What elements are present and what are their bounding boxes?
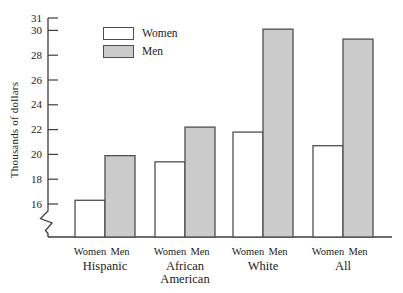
bar-chart-figure: 161820222426283031WomenMenHispanicWomenM… — [0, 0, 403, 293]
legend-label-women: Women — [142, 27, 177, 40]
bar-white-women — [233, 132, 263, 237]
bar-sublabel-hispanic-women: Women — [74, 246, 107, 257]
bar-all-women — [313, 146, 343, 237]
chart-canvas: 161820222426283031WomenMenHispanicWomenM… — [0, 0, 403, 293]
bar-hispanic-women — [75, 200, 105, 237]
category-label-african-american-line2: American — [160, 272, 210, 286]
category-label-all: All — [335, 259, 352, 273]
category-label-hispanic: Hispanic — [83, 259, 128, 273]
bar-sublabel-african-american-women: Women — [154, 246, 187, 257]
y-tick-label-20: 20 — [31, 148, 43, 160]
bar-all-men — [343, 39, 373, 237]
legend-item-women: Women — [103, 27, 177, 40]
bar-african-american-men — [185, 127, 215, 237]
y-tick-label-31: 31 — [31, 12, 42, 24]
legend-swatch-women — [103, 27, 134, 40]
bar-sublabel-white-men: Men — [268, 246, 288, 257]
bar-sublabel-all-men: Men — [348, 246, 368, 257]
y-axis-title: Thousands of dollars — [8, 82, 20, 178]
y-tick-label-24: 24 — [31, 98, 43, 110]
bar-sublabel-hispanic-men: Men — [110, 246, 130, 257]
bar-sublabel-all-women: Women — [312, 246, 345, 257]
bar-african-american-women — [155, 162, 185, 237]
y-tick-label-26: 26 — [31, 74, 43, 86]
y-tick-label-18: 18 — [31, 173, 43, 185]
bar-sublabel-african-american-men: Men — [190, 246, 210, 257]
category-label-white: White — [248, 259, 279, 273]
bar-hispanic-men — [105, 156, 135, 237]
bar-white-men — [263, 29, 293, 237]
legend: Women Men — [103, 27, 177, 58]
category-label-african-american: African — [166, 259, 205, 273]
y-tick-label-28: 28 — [31, 49, 43, 61]
legend-label-men: Men — [142, 45, 163, 58]
y-tick-label-16: 16 — [31, 198, 43, 210]
y-tick-label-30: 30 — [31, 24, 43, 36]
legend-swatch-men — [103, 45, 134, 58]
bar-sublabel-white-women: Women — [232, 246, 265, 257]
legend-item-men: Men — [103, 45, 177, 58]
y-tick-label-22: 22 — [31, 123, 42, 135]
